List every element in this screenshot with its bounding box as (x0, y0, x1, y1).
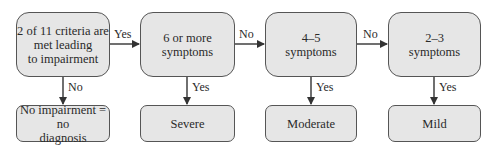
edge-label-no: No (68, 80, 83, 95)
node-text: symptoms (162, 45, 213, 59)
outcome-mild: Mild (388, 105, 481, 142)
edge-label-yes: Yes (192, 80, 209, 95)
edge-label-no: No (363, 27, 378, 42)
node-text: 2 of 11 criteria are (17, 24, 109, 38)
node-text: No impairment = no (20, 103, 106, 131)
node-text: to impairment (28, 52, 98, 66)
node-text: 4–5 (302, 31, 321, 45)
decision-criteria-met: 2 of 11 criteria aremet leadingto impair… (16, 12, 110, 77)
decision-six-or-more: 6 or moresymptoms (140, 12, 235, 77)
node-text: diagnosis (39, 131, 86, 145)
node-text: symptoms (409, 45, 460, 59)
edge-label-no: No (239, 27, 254, 42)
node-text: 2–3 (425, 31, 444, 45)
node-text: met leading (34, 38, 93, 52)
node-text: symptoms (285, 45, 336, 59)
outcome-severe: Severe (140, 105, 235, 142)
node-text: 6 or more (163, 31, 212, 45)
edge-label-yes: Yes (439, 80, 456, 95)
decision-four-five: 4–5symptoms (265, 12, 357, 77)
edge-label-yes: Yes (316, 80, 333, 95)
node-text: Mild (422, 117, 446, 131)
outcome-no-diagnosis: No impairment = nodiagnosis (16, 105, 110, 142)
node-text: Severe (170, 117, 204, 131)
outcome-moderate: Moderate (265, 105, 357, 142)
decision-two-three: 2–3symptoms (388, 12, 481, 77)
edge-label-yes: Yes (114, 27, 131, 42)
node-text: Moderate (287, 117, 335, 131)
